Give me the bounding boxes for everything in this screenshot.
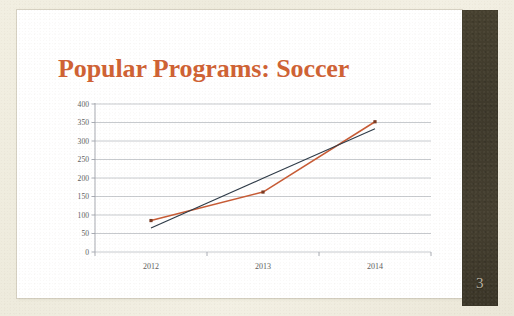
y-tick-label: 150 <box>78 192 90 201</box>
data-point-marker <box>261 190 264 193</box>
y-tick-label: 50 <box>81 229 89 238</box>
slide-sidebar-accent: 3 <box>462 10 498 306</box>
x-tick-label: 2012 <box>143 262 159 271</box>
slide-body: Popular Programs: Soccer 050100150200250… <box>17 10 462 298</box>
chart-data-markers <box>149 120 376 222</box>
line-chart: 050100150200250300350400 201220132014 <box>65 98 435 288</box>
y-axis-tick-labels: 050100150200250300350400 <box>78 100 90 257</box>
x-tick-label: 2014 <box>367 262 383 271</box>
chart-svg: 050100150200250300350400 201220132014 <box>65 98 435 288</box>
data-point-marker <box>149 219 152 222</box>
y-tick-label: 200 <box>78 174 90 183</box>
y-tick-label: 250 <box>78 155 90 164</box>
y-tick-label: 350 <box>78 118 90 127</box>
x-axis-tick-labels: 201220132014 <box>143 262 383 271</box>
y-tick-label: 0 <box>85 248 89 257</box>
y-tick-label: 300 <box>78 137 90 146</box>
page-number: 3 <box>462 275 498 292</box>
y-tick-label: 100 <box>78 211 90 220</box>
series-line-path <box>151 122 375 221</box>
data-point-marker <box>373 120 376 123</box>
chart-series <box>151 122 375 228</box>
x-tick-label: 2013 <box>255 262 271 271</box>
x-axis-tick-marks <box>95 252 431 256</box>
slide-scan-canvas: Popular Programs: Soccer 050100150200250… <box>0 0 514 316</box>
page-title: Popular Programs: Soccer <box>58 54 349 84</box>
y-tick-label: 400 <box>78 100 90 109</box>
y-axis-tick-marks <box>92 104 96 252</box>
